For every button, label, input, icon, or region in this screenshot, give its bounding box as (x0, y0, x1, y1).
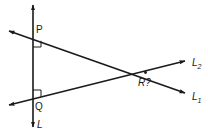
label-P: P (36, 24, 43, 35)
point-R-dot (144, 71, 147, 74)
label-L1: L1 (192, 91, 202, 104)
label-L: L (37, 119, 43, 130)
label-R: R? (138, 77, 151, 88)
geometry-diagram: P Q R? L L2 L1 (0, 0, 208, 138)
right-angle-mark-Q (33, 90, 41, 97)
label-L2: L2 (192, 57, 202, 70)
label-Q: Q (35, 101, 43, 112)
